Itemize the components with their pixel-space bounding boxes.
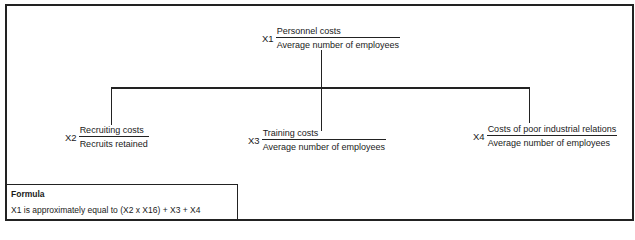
numerator: Training costs [262,128,386,140]
numerator: Recruiting costs [79,125,149,137]
formula-title: Formula [11,189,45,199]
x4-stem-line [529,87,530,123]
denominator: Recruits retained [79,137,149,149]
x3-stem-line [321,87,322,131]
numerator: Personnel costs [276,26,400,38]
formula-expression: X1 is approximately equal to (X2 x X16) … [11,205,200,215]
root-stem-line [321,50,322,88]
fraction: Personnel costs Average number of employ… [276,26,400,50]
denominator: Average number of employees [276,38,400,50]
fraction: Recruiting costs Recruits retained [79,125,149,149]
node-x2: X2 Recruiting costs Recruits retained [65,125,149,149]
node-x1: X1 Personnel costs Average number of emp… [262,26,400,50]
formula-box: Formula X1 is approximately equal to (X2… [5,184,238,219]
variable-label: X2 [65,132,77,143]
denominator: Average number of employees [487,136,618,148]
fraction: Training costs Average number of employe… [262,128,386,152]
denominator: Average number of employees [262,140,386,152]
node-x4: X4 Costs of poor industrial relations Av… [473,124,617,148]
variable-label: X4 [473,131,485,142]
numerator: Costs of poor industrial relations [487,124,618,136]
fraction: Costs of poor industrial relations Avera… [487,124,618,148]
variable-label: X1 [262,33,274,44]
variable-label: X3 [248,135,260,146]
node-x3: X3 Training costs Average number of empl… [248,128,386,152]
x2-stem-line [111,87,112,125]
